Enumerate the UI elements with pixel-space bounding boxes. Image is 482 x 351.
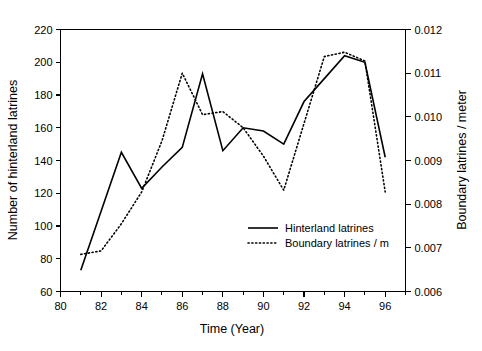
x-ticklabel: 86 bbox=[176, 300, 188, 312]
y-ticklabel-left: 100 bbox=[34, 220, 52, 232]
legend-layer: Hinterland latrinesBoundary latrines / m bbox=[248, 222, 389, 249]
x-ticklabel: 84 bbox=[136, 300, 148, 312]
y-ticklabel-left: 80 bbox=[40, 253, 52, 265]
y-ticklabel-right: 0.012 bbox=[415, 24, 443, 36]
y-ticklabel-right: 0.008 bbox=[415, 198, 443, 210]
y-ticklabel-right: 0.006 bbox=[415, 286, 443, 298]
x-axis-title: Time (Year) bbox=[200, 322, 264, 336]
axes-layer: 60801001201401601802002200.0060.0070.008… bbox=[34, 24, 442, 312]
y-ticklabel-left: 120 bbox=[34, 187, 52, 199]
axis-labels-layer: Time (Year)Number of hinterland latrines… bbox=[6, 80, 469, 336]
y-ticklabel-left: 200 bbox=[34, 56, 52, 68]
y-ticklabel-right: 0.011 bbox=[415, 67, 442, 79]
y-ticklabel-left: 140 bbox=[34, 155, 52, 167]
x-ticklabel: 94 bbox=[338, 300, 350, 312]
y-axis-title-right: Boundary latrines / meter bbox=[455, 90, 469, 230]
y-ticklabel-right: 0.010 bbox=[415, 111, 443, 123]
y-ticklabel-left: 60 bbox=[40, 286, 52, 298]
x-ticklabel: 88 bbox=[217, 300, 229, 312]
y-ticklabel-left: 180 bbox=[34, 89, 52, 101]
x-ticklabel: 82 bbox=[95, 300, 107, 312]
y-axis-title-left: Number of hinterland latrines bbox=[6, 80, 20, 241]
x-ticklabel: 90 bbox=[257, 300, 269, 312]
legend-label: Boundary latrines / m bbox=[285, 237, 389, 249]
y-ticklabel-left: 160 bbox=[34, 122, 52, 134]
y-ticklabel-left: 220 bbox=[34, 24, 52, 36]
x-ticklabel: 92 bbox=[298, 300, 310, 312]
x-ticklabel: 96 bbox=[379, 300, 391, 312]
chart-figure: 60801001201401601802002200.0060.0070.008… bbox=[0, 0, 482, 351]
y-ticklabel-right: 0.009 bbox=[415, 155, 443, 167]
chart-canvas: 60801001201401601802002200.0060.0070.008… bbox=[0, 0, 482, 351]
legend-label: Hinterland latrines bbox=[285, 222, 374, 234]
y-ticklabel-right: 0.007 bbox=[415, 242, 443, 254]
x-ticklabel: 80 bbox=[54, 300, 66, 312]
